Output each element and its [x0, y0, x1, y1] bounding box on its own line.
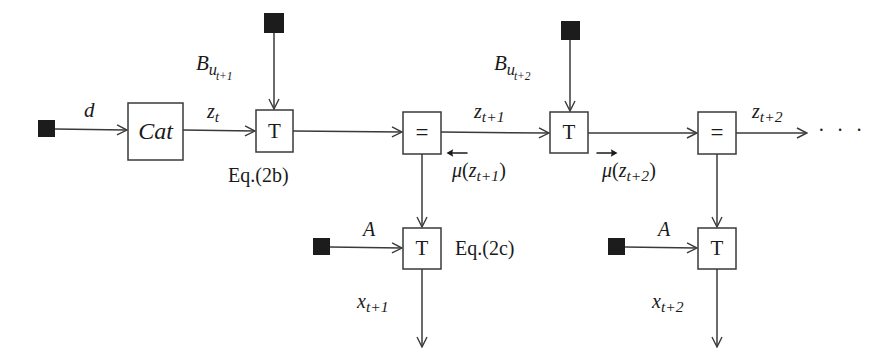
edge-label-bu-t2-subsub: t+2: [514, 70, 531, 82]
block-label-t-1: T: [256, 110, 293, 152]
mu-backward-arg-sub: t+1: [477, 167, 500, 184]
annotation-eq-2b: Eq.(2b): [228, 165, 289, 185]
edge-label-d: d: [84, 100, 95, 121]
mu-forward-paren-open: (: [612, 159, 619, 181]
block-label-equals-1: =: [403, 112, 441, 154]
edge-label-z-t1: zt+1: [474, 101, 504, 121]
mu-backward-symbol-group: μ: [452, 160, 462, 180]
block-label-cat: Cat: [128, 103, 183, 160]
edge-label-bu-t1-subsub: t+1: [216, 70, 233, 82]
edge-label-bu-t2: But+2: [494, 53, 532, 74]
edge-label-x-t1-sub: t+1: [366, 298, 389, 315]
edge-label-x-t2-sub: t+2: [661, 298, 684, 315]
mu-forward-symbol-group: μ: [602, 160, 612, 180]
mu-backward-paren-open: (: [462, 159, 469, 181]
edge-cat-to-t1: [183, 130, 254, 131]
terminal-square-bu1: [264, 13, 284, 33]
terminal-square-a2: [608, 238, 625, 255]
edge-label-bu-t1-base: B: [196, 51, 209, 75]
edge-label-z-t-sub: t: [215, 108, 219, 125]
edge-label-z-t1-sub: t+1: [482, 108, 505, 125]
terminal-square-bu2: [561, 21, 580, 40]
mu-forward-paren-close: ): [649, 159, 656, 181]
edge-a2-to-t4: [625, 247, 696, 248]
edge-label-x-t2-base: x: [652, 290, 661, 312]
block-label-t-4: T: [698, 228, 736, 269]
edge-label-z-t2-sub: t+2: [760, 108, 783, 125]
mu-backward-paren-close: ): [499, 159, 506, 181]
mu-forward-symbol: μ: [602, 159, 612, 181]
annotation-eq-2c: Eq.(2c): [455, 238, 514, 258]
terminal-square-d: [38, 120, 55, 137]
edge-label-x-t1: xt+1: [357, 291, 389, 311]
diagram-canvas: Cat T = T = T T d zt zt+1 zt+2 But+1 But…: [0, 0, 878, 363]
mu-forward-arg-sub: t+2: [627, 167, 650, 184]
edge-label-bu-t1: But+1: [196, 53, 234, 74]
edge-label-x-t1-base: x: [357, 290, 366, 312]
edge-label-z-t2-base: z: [752, 100, 760, 122]
edge-label-z-t: zt: [207, 101, 219, 121]
mu-forward-arg-base: z: [619, 159, 627, 181]
message-label-mu-forward: μ (zt+2): [602, 160, 656, 180]
mu-backward-symbol: μ: [452, 159, 462, 181]
edge-label-z-t-base: z: [207, 100, 215, 122]
edge-label-x-t2: xt+2: [652, 291, 684, 311]
edge-label-z-t1-base: z: [474, 100, 482, 122]
edge-a1-to-t3: [330, 247, 401, 248]
block-label-t-2: T: [550, 112, 588, 153]
block-label-equals-2: =: [698, 112, 736, 154]
edge-d-to-cat: [55, 129, 126, 130]
edge-label-a-left: A: [363, 219, 375, 239]
edge-eq1-to-t2: [441, 132, 548, 133]
edge-label-z-t2: zt+2: [752, 101, 782, 121]
annotation-ellipsis: · · ·: [818, 120, 866, 140]
diagram-wiring: [0, 0, 878, 363]
edge-t1-to-eq1: [293, 131, 401, 132]
mu-backward-arg-base: z: [469, 159, 477, 181]
block-label-t-3: T: [403, 228, 441, 269]
message-label-mu-backward: μ (zt+1): [452, 160, 506, 180]
edge-label-a-right: A: [658, 219, 670, 239]
terminal-square-a1: [313, 238, 330, 255]
edge-label-bu-t2-base: B: [494, 51, 507, 75]
